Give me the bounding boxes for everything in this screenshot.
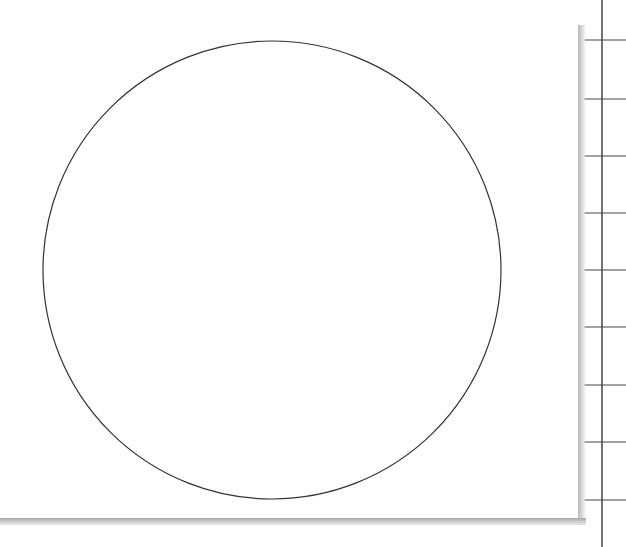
circle-shape [0, 0, 578, 518]
panel-shadow-right [578, 25, 586, 525]
circle-outline [43, 41, 501, 499]
panel-shadow-bottom [0, 518, 586, 526]
